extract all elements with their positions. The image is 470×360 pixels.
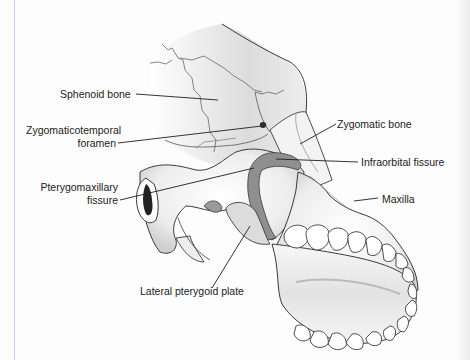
skull-illustration: [0, 0, 470, 360]
label-zygomaticotemporal-line2: foramen: [26, 137, 116, 149]
label-lateral-pterygoid-plate: Lateral pterygoid plate: [140, 285, 244, 297]
zygomaticotemporal-foramen-dot: [260, 122, 266, 128]
leader-lateral-pterygoid: [212, 226, 250, 288]
leader-maxilla: [354, 198, 378, 201]
label-maxilla: Maxilla: [382, 193, 415, 205]
page: Sphenoid bone Zygomaticotemporal foramen…: [0, 0, 470, 360]
label-zygomatic-bone: Zygomatic bone: [337, 118, 412, 130]
label-pterygomaxillary-line1: Pterygomaxillary: [26, 181, 118, 193]
label-infraorbital-fissure: Infraorbital fissure: [361, 156, 444, 168]
label-zygomaticotemporal-line1: Zygomaticotemporal: [26, 124, 116, 136]
label-sphenoid-bone: Sphenoid bone: [60, 88, 131, 100]
label-pterygomaxillary-line2: fissure: [26, 194, 118, 206]
